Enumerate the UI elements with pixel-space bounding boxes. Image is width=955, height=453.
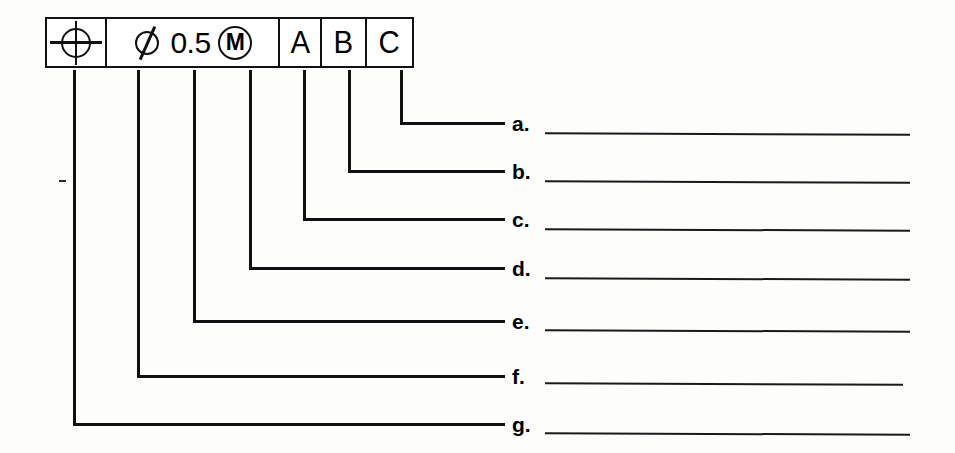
- callout-label-e: e.: [512, 311, 530, 332]
- fcf-cell-datum-primary: A: [280, 19, 322, 66]
- answer-line-a[interactable]: [545, 132, 910, 136]
- answer-line-e[interactable]: [545, 329, 910, 332]
- callout-label-f: f.: [512, 366, 525, 387]
- leader-horizontal-c: [303, 218, 505, 221]
- diameter-symbol-icon: [133, 26, 163, 60]
- leader-horizontal-f: [137, 375, 505, 378]
- datum-letter-tertiary: C: [379, 27, 400, 58]
- leader-horizontal-g: [73, 423, 505, 426]
- leader-vertical-c: [303, 70, 306, 220]
- leader-vertical-b: [348, 70, 351, 172]
- leader-vertical-g: [73, 70, 76, 425]
- fcf-cell-datum-tertiary: C: [367, 19, 412, 66]
- leader-vertical-e: [193, 70, 196, 322]
- fcf-cell-tolerance: 0.5 M: [107, 19, 280, 66]
- position-symbol-icon: [50, 21, 102, 65]
- datum-letter-secondary: B: [334, 27, 354, 58]
- scan-artifact: [59, 180, 66, 182]
- leader-vertical-a: [400, 70, 403, 124]
- answer-line-f[interactable]: [545, 382, 903, 386]
- callout-label-a: a.: [512, 113, 530, 134]
- answer-line-b[interactable]: [545, 180, 910, 184]
- leader-vertical-d: [249, 70, 252, 269]
- leader-horizontal-a: [400, 122, 505, 125]
- feature-control-frame: 0.5 M A B C: [45, 17, 414, 68]
- fcf-cell-datum-secondary: B: [322, 19, 367, 66]
- leader-vertical-f: [137, 70, 140, 377]
- leader-horizontal-d: [249, 267, 505, 270]
- answer-line-d[interactable]: [545, 277, 910, 280]
- fcf-cell-geometric-characteristic: [47, 19, 107, 66]
- answer-line-c[interactable]: [545, 228, 910, 231]
- mmc-circled-m-symbol-icon: M: [218, 26, 252, 60]
- callout-label-b: b.: [512, 161, 531, 182]
- callout-label-c: c.: [512, 209, 530, 230]
- leader-horizontal-e: [193, 320, 505, 323]
- callout-label-g: g.: [512, 414, 531, 435]
- datum-letter-primary: A: [290, 27, 310, 58]
- callout-label-d: d.: [512, 258, 531, 279]
- leader-horizontal-b: [348, 170, 505, 173]
- answer-line-g[interactable]: [545, 432, 910, 435]
- tolerance-value: 0.5: [170, 28, 210, 58]
- mmc-letter: M: [218, 26, 252, 60]
- worksheet-page: 0.5 M A B C a. b. c. d.: [0, 0, 955, 453]
